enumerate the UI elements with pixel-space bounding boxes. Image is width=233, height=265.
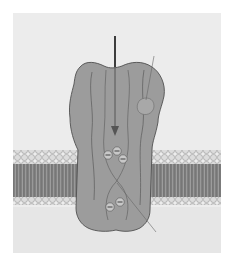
lipid-bilayer-left [13, 150, 85, 205]
ion-icon [119, 155, 127, 163]
acetylcholine-binding-site [137, 98, 154, 115]
lipid-bilayer-right [142, 150, 221, 205]
ion-icon [116, 198, 124, 206]
ion-channel-diagram [0, 0, 233, 265]
ion-icon [113, 147, 121, 155]
ion-icon [106, 203, 114, 211]
ion-icon [104, 151, 112, 159]
